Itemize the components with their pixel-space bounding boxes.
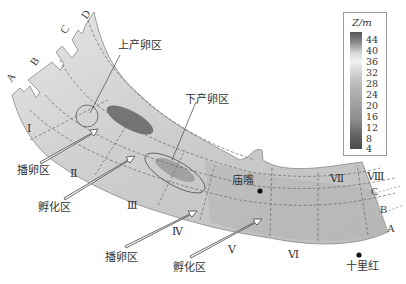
legend-tick: 4: [366, 144, 372, 154]
hatch-area-1-label: 孵化区: [38, 202, 71, 213]
shilihong-label: 十里红: [346, 261, 379, 272]
reach-label-7: Ⅶ: [330, 173, 344, 184]
legend-tick: 36: [366, 57, 378, 67]
reach-label-1: Ⅰ: [27, 123, 31, 134]
reach-label-4: Ⅳ: [172, 226, 183, 237]
depth-legend: Z/m 44 40 36 32 28 24 20 16 12 8 4: [343, 12, 387, 156]
reach-label-2: Ⅱ: [70, 168, 77, 179]
legend-tick: 44: [366, 35, 378, 45]
hatch-area-2-label: 孵化区: [173, 262, 206, 273]
legend-color-bar: [350, 32, 362, 149]
legend-tick: 28: [366, 79, 378, 89]
legend-tick: 40: [366, 46, 378, 56]
section-label-c-downstream: C: [371, 186, 378, 197]
miaozui-label: 庙嘴: [232, 175, 254, 186]
reach-label-6: Ⅵ: [288, 249, 299, 260]
upper-spawning-zone-label: 上产卵区: [118, 40, 162, 51]
lower-spawning-zone-label: 下产卵区: [185, 94, 229, 105]
spawn-area-2-label: 播卵区: [105, 252, 138, 263]
shilihong-marker: [356, 252, 361, 257]
legend-tick: 20: [366, 101, 378, 111]
reach-label-5: Ⅴ: [228, 244, 236, 255]
legend-tick: 12: [366, 123, 378, 133]
reach-label-8: Ⅷ: [367, 171, 384, 182]
reach-label-3: Ⅲ: [127, 200, 138, 211]
legend-title: Z/m: [352, 17, 372, 28]
legend-tick: 24: [366, 90, 378, 100]
miaozui-marker: [257, 188, 262, 193]
section-label-b-downstream: B: [380, 204, 387, 215]
legend-tick: 16: [366, 112, 378, 122]
spawn-area-1-label: 播卵区: [17, 165, 50, 176]
legend-tick: 32: [366, 68, 378, 78]
section-label-a-downstream: A: [387, 223, 395, 234]
